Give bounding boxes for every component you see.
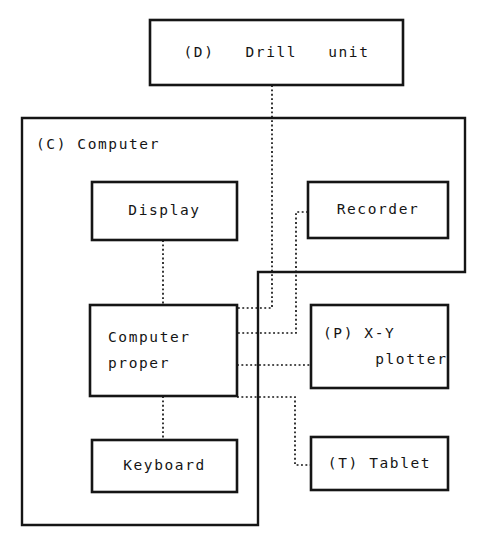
xy-plotter-label: (P) X-Y plotter — [311, 305, 448, 388]
xy-plotter-label-line2: plotter — [323, 347, 448, 372]
connector-computer-proper-to-tablet — [237, 397, 311, 465]
tablet-label: (T) Tablet — [311, 437, 448, 490]
display-label: Display — [92, 182, 237, 240]
connector-recorder-to-computer-proper — [237, 212, 308, 333]
computer-proper-label-line1: Computer — [108, 325, 191, 350]
computer-proper-label-line2: proper — [108, 351, 170, 376]
keyboard-label: Keyboard — [92, 440, 237, 492]
drill-unit-label: (D) Drill unit — [150, 20, 403, 85]
system-block-diagram: (C) Computer (D) Drill unit Display Reco… — [0, 0, 489, 546]
computer-group-title: (C) Computer — [36, 136, 160, 152]
xy-plotter-label-line1: (P) X-Y — [323, 321, 395, 346]
connector-drill-unit-to-computer-proper — [237, 85, 272, 308]
recorder-label: Recorder — [308, 182, 448, 238]
computer-proper-label: Computer proper — [90, 305, 237, 396]
